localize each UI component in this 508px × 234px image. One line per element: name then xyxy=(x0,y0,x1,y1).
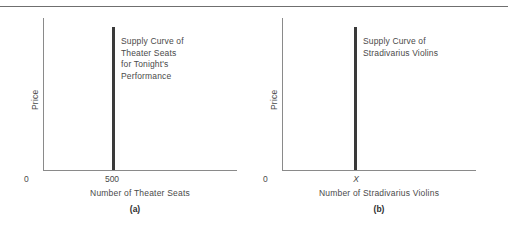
supply-curve-label: Supply Curve of Stradivarius Violins xyxy=(363,36,438,59)
origin-label: 0 xyxy=(263,174,268,184)
x-tick-label-x: X xyxy=(336,174,376,184)
x-axis-line xyxy=(282,170,476,171)
x-axis-title: Number of Theater Seats xyxy=(43,188,237,198)
supply-curve-figure: Price 0 500 Number of Theater Seats Supp… xyxy=(0,0,508,234)
supply-curve-bar xyxy=(354,27,357,170)
y-axis-title: Price xyxy=(269,90,279,110)
origin-label: 0 xyxy=(24,174,29,184)
y-axis-line xyxy=(282,18,283,170)
panel-caption-a: (a) xyxy=(105,204,165,214)
x-axis-title: Number of Stradivarius Violins xyxy=(282,188,476,198)
panel-theater-seats: Price 0 500 Number of Theater Seats Supp… xyxy=(0,0,254,234)
supply-curve-label: Supply Curve of Theater Seats for Tonigh… xyxy=(121,36,184,82)
x-axis-line xyxy=(43,170,237,171)
panel-stradivarius-violins: Price 0 X Number of Stradivarius Violins… xyxy=(254,0,508,234)
supply-curve-bar xyxy=(112,27,115,170)
y-axis-line xyxy=(43,18,44,170)
y-axis-title: Price xyxy=(30,90,40,110)
x-tick-label-500: 500 xyxy=(92,174,132,184)
panel-caption-b: (b) xyxy=(349,204,409,214)
